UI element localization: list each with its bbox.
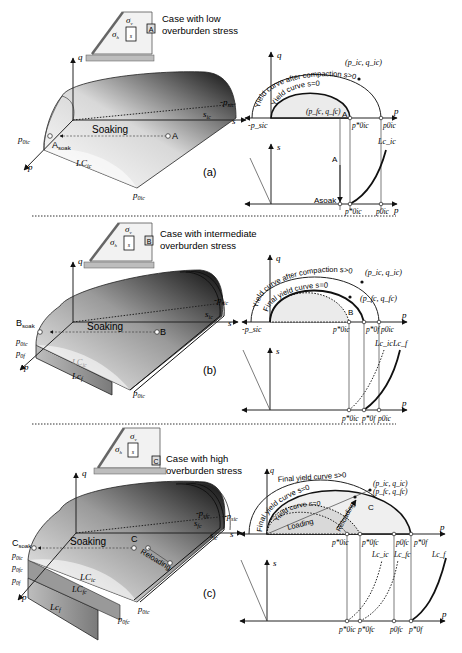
- p-axis-pq-b: p: [401, 310, 407, 320]
- panel-tag-b: (b): [203, 364, 216, 376]
- p0ic-label-a: p0ic: [132, 190, 145, 201]
- lc-fc-label-c: LCfc: [71, 584, 87, 595]
- yield-surface-3d-c: [18, 473, 242, 640]
- pfc-qfc-label-a: (p_fc, q_fc): [306, 107, 341, 116]
- s-axis-label-b: s: [228, 318, 232, 328]
- p0f-star-ps-c: p*0f: [408, 625, 423, 634]
- pq-point-b: B: [348, 308, 353, 317]
- final-yield-curve-s-gt0-label: Final yield curve s>0: [278, 470, 347, 484]
- point-a: A: [172, 131, 178, 141]
- p0ic-star-pq-c: p*0ic: [331, 538, 349, 547]
- soaking-label-b: Soaking: [87, 321, 123, 332]
- panel-c: s σv σh C Case with high overburden stre…: [11, 428, 447, 640]
- panel-a: s σv σh A Case with low overburden stres…: [17, 12, 399, 216]
- figure-canvas: s σv σh A Case with low overburden stres…: [0, 0, 462, 653]
- point-b-soak: Bsoak: [16, 318, 36, 329]
- pq-point-a: A: [342, 110, 348, 119]
- badge-c: C: [153, 458, 158, 465]
- inset-a-slope-sketch: s σv σh A: [86, 12, 155, 61]
- p0ic-star-pq-b: p*0ic: [332, 325, 350, 334]
- p0fc-star-label-c: p0fc: [11, 563, 23, 573]
- p0f-star-pq-b: p*0f: [365, 325, 380, 334]
- point-c: C: [131, 534, 138, 544]
- p-axis-ps-a: p: [393, 205, 399, 215]
- neg-psic-c: -psic: [224, 511, 238, 522]
- p0ic-star-label-c: p0ic: [11, 551, 23, 561]
- badge-a: A: [149, 26, 154, 33]
- p-axis-pq-c: p: [439, 522, 445, 532]
- soaking-label-a: Soaking: [92, 124, 128, 135]
- q-axis-label-b: q: [78, 256, 83, 266]
- caption-a-line2: overburden stress: [162, 25, 238, 36]
- ps-point-a-soak: Asoak: [314, 196, 337, 205]
- badge-b: B: [147, 238, 152, 245]
- p0f-star-ps-b: p*0f: [361, 414, 376, 423]
- ps-point-a: A: [332, 155, 338, 164]
- p0f-star-pq-c: p*0f: [413, 538, 428, 547]
- pq-point-c: C: [368, 503, 374, 512]
- soaking-label-c: Soaking: [70, 536, 106, 547]
- lc-fc-ps-c: Lc_fc: [393, 550, 411, 559]
- p0fc-ps-c: p0fc: [389, 625, 404, 634]
- caption-c-line1: Case with high: [166, 453, 228, 464]
- p0f-star-label-b: p0f: [15, 348, 26, 359]
- point-b: B: [160, 327, 166, 337]
- s-axis-ps-a: s: [277, 142, 281, 152]
- neg-psic-pq-a: -p_sic: [248, 121, 268, 130]
- q-axis-label-a: q: [78, 52, 83, 62]
- p0ic-pq-a: p0ic: [382, 121, 397, 130]
- q-axis-pq-c: q: [270, 466, 274, 475]
- caption-b-line2: overburden stress: [160, 240, 236, 251]
- p0ic-star-ps-c: p*0ic: [338, 625, 356, 634]
- p-axis-ps-c: p: [441, 609, 447, 619]
- p-axis-label-b: p: [23, 362, 29, 372]
- p0ic-pq-b: p0ic: [380, 325, 395, 334]
- caption-a-line1: Case with low: [162, 13, 221, 24]
- pfc-qfc-label-c: (p_fc, q_fc): [373, 487, 408, 496]
- ps-plot-b: [242, 348, 407, 412]
- p0ic-star-label-b: p0ic: [15, 336, 28, 347]
- inset-b-slope-sketch: s σv σh B: [84, 223, 154, 268]
- s-axis-label-a: s: [232, 116, 236, 126]
- p-axis-pq-a: p: [393, 106, 399, 116]
- q-axis-pq-a: q: [277, 50, 282, 60]
- neg-psic-pq-b: -p_sic: [242, 325, 262, 334]
- panel-tag-a: (a): [203, 166, 216, 178]
- p-axis-label-a: p: [27, 162, 33, 172]
- s-axis-ps-c: s: [273, 558, 277, 568]
- s-axis-label-c: s: [230, 529, 234, 539]
- p0fc-pq-c: p0fc: [395, 538, 410, 547]
- lc-f-ps-b: Lc_f: [392, 339, 409, 348]
- pic-qic-label-a: (p_ic, q_ic): [345, 58, 382, 67]
- lc-ic-ps-c: Lc_ic: [371, 550, 389, 559]
- p0ic-ps-a: p0ic: [375, 207, 390, 216]
- p0ic-star-ps-a: p*0ic: [344, 207, 362, 216]
- inset-c-slope-sketch: s σv σh C: [94, 428, 166, 474]
- p0fc-star-ps-c: p*0fc: [357, 625, 375, 634]
- p0ic-label-b: p0ic: [132, 388, 145, 399]
- ps-plot-c: [240, 558, 446, 623]
- caption-b-line1: Case with intermediate: [160, 228, 257, 239]
- p0fc-label-c: p0fc: [117, 614, 130, 625]
- p0f-label-c: p0f: [11, 576, 22, 586]
- neg-psic-b: -psic: [214, 295, 229, 306]
- pfc-qfc-label-b: (p_fc, q_fc): [360, 294, 397, 303]
- p-axis-label-c: p: [21, 592, 27, 602]
- p-axis-ps-b: p: [401, 398, 407, 408]
- lc-ic-ps-b: Lc_ic: [374, 339, 393, 348]
- panel-b: s σv σh B Case with intermediate overbur…: [15, 223, 409, 423]
- caption-c-line2: overburden stress: [166, 465, 242, 476]
- p0ic-star-label-a: p0ic: [17, 134, 30, 145]
- point-c-soak: Csoak: [12, 538, 32, 549]
- pic-qic-label-b: (p_ic, q_ic): [365, 268, 402, 277]
- p0ic-star-pq-a: p*0ic: [351, 121, 369, 130]
- lc-f-ps-c: Lc_f: [431, 550, 446, 559]
- p0ic-star-ps-b: p*0ic: [341, 414, 359, 423]
- p0fc-star-pq-c: p*0fc: [361, 538, 379, 547]
- p0ic-ps-b: p0ic: [377, 414, 392, 423]
- s-axis-ps-b: s: [276, 346, 280, 356]
- q-axis-pq-b: q: [276, 253, 281, 263]
- p0ic-label-c: p0ic: [137, 604, 150, 615]
- q-axis-label-c: q: [82, 468, 87, 478]
- lc-ic-ps-a: Lc_ic: [377, 137, 396, 146]
